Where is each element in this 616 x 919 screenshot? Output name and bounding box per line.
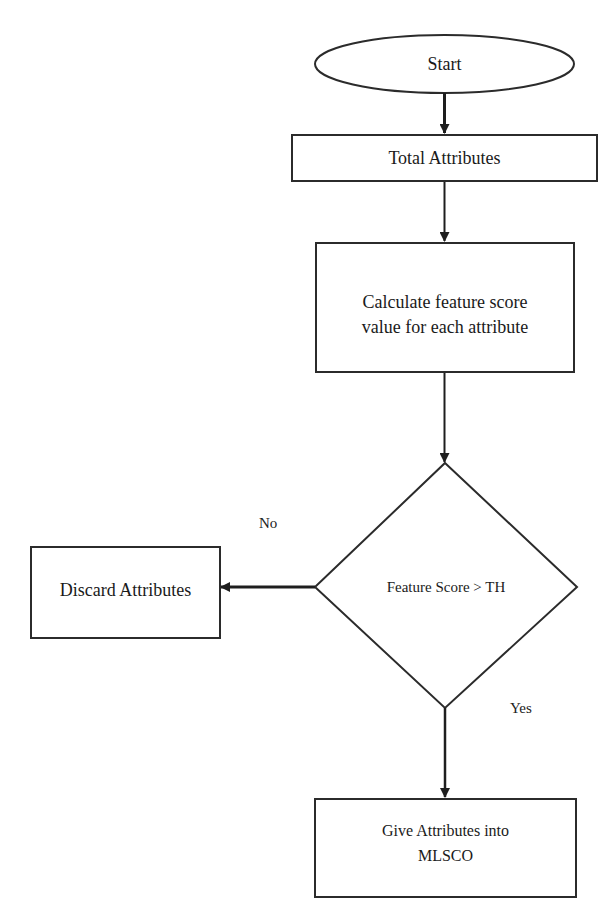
give-attributes-box: Give Attributes into MLSCO (314, 798, 577, 898)
discard-attributes-box: Discard Attributes (30, 546, 221, 639)
decision-node: Feature Score > TH (315, 575, 577, 599)
give-label-line1: Give Attributes into (382, 819, 509, 844)
edge-label-yes: Yes (510, 700, 532, 717)
edge-label-no: No (259, 515, 277, 532)
start-terminal: Start (315, 35, 574, 93)
flowchart-canvas: Start Total Attributes Calculate feature… (0, 0, 616, 919)
start-label: Start (428, 52, 462, 76)
calculate-label-line1: Calculate feature score (363, 290, 528, 314)
give-label-line2: MLSCO (418, 844, 473, 869)
discard-attributes-label: Discard Attributes (60, 578, 191, 602)
calculate-feature-score-box: Calculate feature score value for each a… (315, 242, 575, 373)
total-attributes-label: Total Attributes (388, 146, 500, 170)
decision-label: Feature Score > TH (387, 577, 506, 597)
calculate-label-line2: value for each attribute (362, 315, 528, 339)
total-attributes-box: Total Attributes (291, 134, 598, 182)
